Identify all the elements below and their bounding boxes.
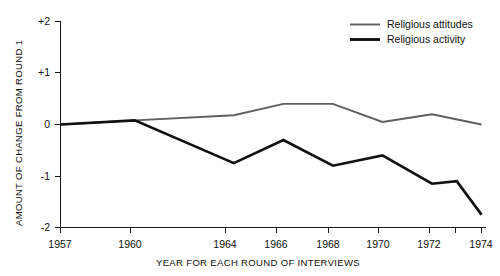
x-tick-label-1974: 1974 — [469, 238, 493, 250]
y-tick-label-plus2: +2 — [38, 15, 50, 27]
y-tick-label-minus2: -2 — [41, 221, 50, 233]
y-tick-label-zero: 0 — [44, 118, 50, 130]
chart-canvas: +2 +1 0 -1 -2 AMOUNT OF CHANGE FROM ROUN… — [0, 0, 500, 276]
x-tick-label-1970: 1970 — [366, 238, 390, 250]
chart-legend: Religious attitudes Religious activity — [350, 18, 473, 45]
line-chart-figure: +2 +1 0 -1 -2 AMOUNT OF CHANGE FROM ROUN… — [0, 0, 500, 276]
x-tick-label-1964: 1964 — [213, 238, 237, 250]
y-tick-label-plus1: +1 — [38, 66, 50, 78]
x-axis-ticks — [61, 228, 482, 234]
x-axis-title: YEAR FOR EACH ROUND OF INTERVIEWS — [156, 257, 360, 268]
x-tick-label-1957: 1957 — [48, 238, 72, 250]
x-tick-label-1968: 1968 — [316, 238, 340, 250]
x-tick-label-1966: 1966 — [264, 238, 288, 250]
x-tick-label-1960: 1960 — [118, 238, 142, 250]
y-axis-title: AMOUNT OF CHANGE FROM ROUND 1 — [13, 40, 24, 226]
x-tick-label-1972: 1972 — [417, 238, 441, 250]
legend-label-religious-attitudes: Religious attitudes — [387, 18, 473, 30]
legend-label-religious-activity: Religious activity — [387, 33, 466, 45]
y-axis-ticks — [55, 22, 61, 228]
y-tick-label-minus1: -1 — [41, 170, 50, 182]
series-line-religious-activity — [61, 120, 482, 214]
